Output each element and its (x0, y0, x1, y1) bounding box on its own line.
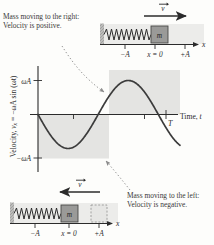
wall-left-bottom (10, 203, 14, 224)
x-axis-label-bottom: x (115, 219, 120, 228)
y-tick-label-positive: ωA (21, 77, 31, 86)
wall-left-top (100, 24, 104, 45)
y-axis-label: Velocity, vx = −ωA sin (ωt) (9, 58, 18, 176)
label-zero-top: x = 0 (146, 50, 163, 59)
label-minus-A-bottom: −A (30, 229, 40, 238)
y-axis-label-sub: x (12, 123, 18, 125)
y-tick-label-negative: −ωA (16, 154, 31, 163)
x-axis-label-top: x (201, 40, 206, 49)
velocity-vector-label-top: v (161, 4, 165, 13)
caption-moving-left: Mass moving to the left: Velocity is neg… (127, 191, 211, 209)
diagram-mass-spring-left: x m v −A x = 0 +A (10, 179, 120, 238)
leader-line-bottom (106, 161, 130, 190)
y-axis-label-prefix: Velocity, (9, 129, 18, 158)
y-axis-label-var: v (9, 125, 18, 128)
velocity-graph: ωA −ωA T (16, 66, 180, 172)
label-plus-A-bottom: +A (94, 229, 104, 238)
caption-moving-right: Mass moving to the right: Velocity is po… (3, 12, 81, 30)
velocity-vector-bar-arrow-bottom (84, 179, 86, 182)
label-plus-A-top: +A (180, 50, 190, 59)
leader-line-top (62, 46, 104, 92)
velocity-vector-label-bottom: v (78, 180, 82, 189)
x-axis-label-prefix: Time, (180, 112, 200, 121)
x-axis-label: Time, t (180, 112, 202, 121)
x-axis-label-var: t (200, 112, 202, 121)
x-tick-label-period: T (168, 119, 173, 128)
ghost-mass-block (91, 205, 107, 222)
y-axis-label-eq: = −ωA sin (ωt) (9, 76, 18, 123)
diagram-mass-spring-right: x m v −A x = 0 +A (100, 3, 206, 59)
velocity-vector-bar-arrow-top (167, 3, 169, 6)
shaded-band-negative (38, 115, 109, 159)
mass-block-label-bottom: m (67, 210, 73, 219)
mass-block-label-top: m (157, 31, 163, 40)
label-minus-A-top: −A (120, 50, 130, 59)
label-zero-bottom: x = 0 (60, 229, 77, 238)
